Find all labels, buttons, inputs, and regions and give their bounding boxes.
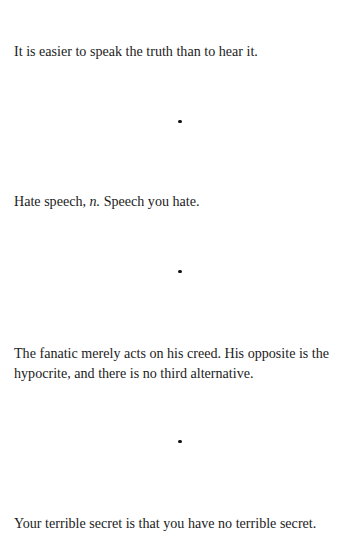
section-divider: [0, 431, 360, 441]
aphorism-hate-speech: Hate speech, n. Speech you hate.: [14, 192, 350, 211]
book-page: ▉▉ ▉▉▉ It is easier to speak the truth t…: [0, 0, 360, 560]
bullet-icon: [178, 120, 181, 123]
section-divider: [0, 111, 360, 121]
aphorism-hate-speech-lead: Hate speech,: [14, 193, 86, 209]
bullet-icon: [178, 440, 181, 443]
aphorism-truth: It is easier to speak the truth than to …: [14, 42, 350, 61]
bullet-icon: [178, 270, 181, 273]
part-of-speech-abbreviation: n.: [90, 193, 101, 209]
section-divider: [0, 261, 360, 271]
aphorism-hate-speech-definition: Speech you hate.: [104, 193, 200, 209]
aphorism-fanatic: The fanatic merely acts on his creed. Hi…: [14, 344, 350, 383]
aphorism-terrible-secret: Your terrible secret is that you have no…: [14, 514, 350, 533]
